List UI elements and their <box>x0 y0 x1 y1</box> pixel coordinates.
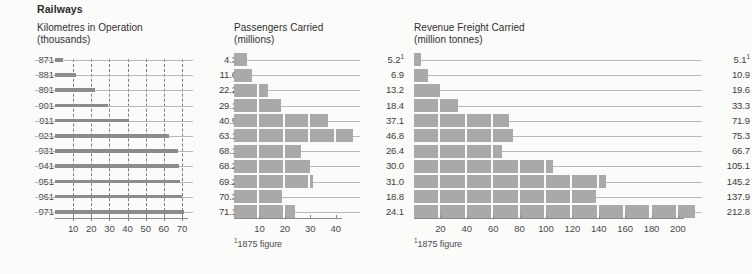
x-tick-70 <box>182 215 183 218</box>
bar-segment <box>414 129 438 142</box>
bar-segment <box>234 160 257 173</box>
leader-line <box>440 90 702 91</box>
bar-1891 <box>234 84 268 97</box>
bar-segment <box>493 129 513 142</box>
leader-line <box>502 151 702 152</box>
chart-title-1: Passengers Carried (millions) <box>234 22 409 45</box>
bar-1971 <box>55 210 184 214</box>
x-tick-label-30: 30 <box>305 223 315 234</box>
chart-footnote: 11875 figure <box>414 239 462 249</box>
chart-row: 88111.6 <box>37 67 242 82</box>
x-tick-60 <box>164 215 165 218</box>
chart-row: 66.7 <box>414 143 752 158</box>
bar-segment <box>599 205 623 218</box>
bar-segment <box>467 160 491 173</box>
x-tick-120 <box>572 215 573 218</box>
bar-segment <box>414 205 438 218</box>
x-tick-160 <box>625 215 626 218</box>
chart-row: 37.1 <box>234 113 414 128</box>
bar-segment <box>234 175 257 188</box>
bar-segment <box>520 205 544 218</box>
bar-segment <box>467 205 491 218</box>
bar-segment <box>572 190 596 203</box>
bar-segment <box>285 114 308 127</box>
bar-segment <box>234 129 257 142</box>
bar-segment <box>440 114 464 127</box>
bar-1921 <box>234 129 353 142</box>
x-axis-line <box>414 218 684 219</box>
x-tick-label-180: 180 <box>644 223 660 234</box>
x-tick-40 <box>467 215 468 218</box>
bar-1871 <box>414 53 421 66</box>
x-tick-label-40: 40 <box>462 223 472 234</box>
bar-segment <box>259 175 282 188</box>
value-label-1931: 66.7 <box>704 145 750 156</box>
chart-row: 8714.3 <box>37 52 242 67</box>
bar-segment <box>259 205 282 218</box>
value-label-1891: 19.6 <box>704 84 750 95</box>
leader-line <box>513 136 702 137</box>
bar-1871 <box>55 58 63 62</box>
chart-row: 5.11 <box>414 52 752 67</box>
leader-line <box>353 136 360 137</box>
chart-row: 33.3 <box>414 98 752 113</box>
bar-1931 <box>234 145 301 158</box>
bar-1951 <box>414 175 606 188</box>
bar-segment <box>414 160 438 173</box>
x-tick-40 <box>336 215 337 218</box>
bar-segment <box>493 114 509 127</box>
bar-segment <box>285 175 308 188</box>
value-label-1871: 5.11 <box>704 54 750 65</box>
bar-segment <box>414 69 428 82</box>
value-label-1951: 69.2 <box>195 176 237 187</box>
bar-1911 <box>414 114 509 127</box>
x-tick-label-50: 50 <box>140 223 150 234</box>
x-tick-60 <box>493 215 494 218</box>
value-label-1971: 212.8 <box>704 206 750 217</box>
leader-line <box>268 90 360 91</box>
bar-segment <box>259 129 282 142</box>
bar-segment <box>440 129 464 142</box>
bar-1951 <box>234 175 313 188</box>
bar-segment <box>520 175 544 188</box>
bar-segment <box>310 129 333 142</box>
chart-row: 19.6 <box>414 82 752 97</box>
value-label-1921: 63.1 <box>195 130 237 141</box>
chart-row: 6.9 <box>234 67 414 82</box>
bar-segment <box>546 205 570 218</box>
bar-segment <box>234 145 257 158</box>
x-tick-label-120: 120 <box>565 223 581 234</box>
value-label-1941: 68.2 <box>195 160 237 171</box>
chart-row: 91140.9 <box>37 113 242 128</box>
x-tick-100 <box>546 215 547 218</box>
x-tick-140 <box>599 215 600 218</box>
value-label-1901: 29.1 <box>195 100 237 111</box>
chart-row: 30.0 <box>234 158 414 173</box>
chart-row: 93168.1 <box>37 143 242 158</box>
leader-line <box>281 106 360 107</box>
x-tick-label-80: 80 <box>514 223 524 234</box>
bar-segment <box>285 129 308 142</box>
leader-line <box>458 106 702 107</box>
leader-line <box>509 121 702 122</box>
x-tick-label-30: 30 <box>104 223 114 234</box>
value-label-1921: 75.3 <box>704 130 750 141</box>
value-label-1891: 22.2 <box>195 84 237 95</box>
value-label-1951: 31.0 <box>362 176 404 187</box>
x-tick-label-70: 70 <box>177 223 187 234</box>
x-axis-line <box>55 218 188 219</box>
x-axis-line <box>234 218 342 219</box>
bar-segment <box>414 190 438 203</box>
bar-segment <box>440 205 464 218</box>
bar-segment <box>599 175 606 188</box>
value-label-1961: 70.3 <box>195 191 237 202</box>
value-label-1881: 10.9 <box>704 69 750 80</box>
chart-row: 137.9 <box>414 189 752 204</box>
chart-row: 5.21 <box>234 52 414 67</box>
x-tick-10 <box>259 215 260 218</box>
bar-segment <box>414 99 438 112</box>
bar-segment <box>234 114 257 127</box>
bar-segment <box>234 53 247 66</box>
bar-segment <box>310 114 328 127</box>
bar-1921 <box>414 129 513 142</box>
